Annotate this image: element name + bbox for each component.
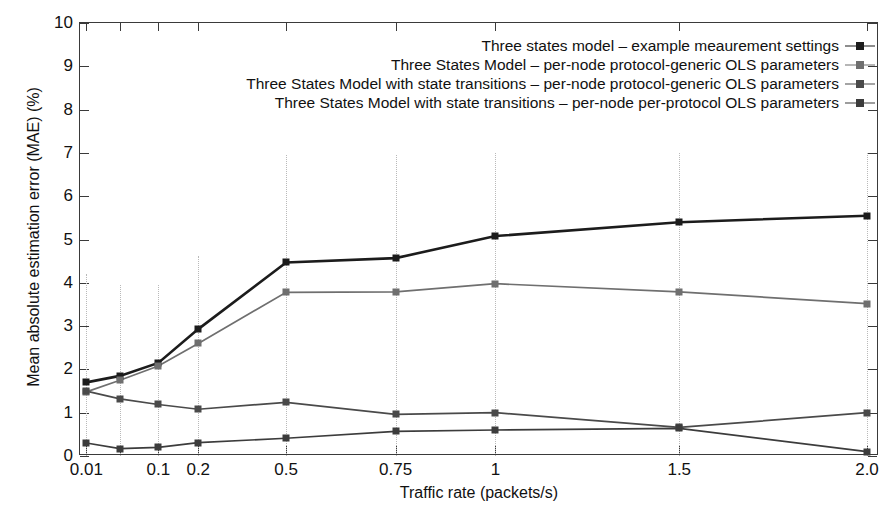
data-point-marker <box>283 399 290 406</box>
y-tick-mark <box>80 456 89 457</box>
data-point-marker <box>676 288 683 295</box>
data-point-marker <box>392 288 399 295</box>
data-point-marker <box>195 340 202 347</box>
plot-area: 012345678910 0.010.10.20.50.7511.52.0 Th… <box>79 22 878 455</box>
legend-square-icon <box>856 80 864 88</box>
y-tick-label: 6 <box>64 186 73 206</box>
legend-swatch <box>845 39 875 53</box>
legend-label: Three States Model – per-node protocol-g… <box>391 56 839 74</box>
legend-label: Three states model – example meaurement … <box>481 37 839 55</box>
data-point-marker <box>155 362 162 369</box>
series-line <box>86 284 867 392</box>
y-tick-label: 7 <box>64 143 73 163</box>
data-point-marker <box>83 388 90 395</box>
x-tick-label: 0.5 <box>274 460 298 480</box>
y-tick-label: 2 <box>64 359 73 379</box>
y-tick-label: 9 <box>64 56 73 76</box>
legend-swatch <box>845 77 875 91</box>
chart-legend: Three states model – example meaurement … <box>246 37 875 112</box>
y-axis-title: Mean absolute estimation error (MAE) (%) <box>25 17 43 457</box>
data-point-marker <box>283 289 290 296</box>
y-tick-label: 1 <box>64 403 73 423</box>
data-point-marker <box>116 395 123 402</box>
data-point-marker <box>492 427 499 434</box>
data-point-marker <box>864 448 871 455</box>
data-point-marker <box>864 409 871 416</box>
series-line <box>86 391 867 427</box>
data-point-marker <box>195 439 202 446</box>
x-tick-label: 0.01 <box>70 460 103 480</box>
data-point-marker <box>83 379 90 386</box>
data-point-marker <box>155 444 162 451</box>
y-tick-label: 5 <box>64 230 73 250</box>
data-point-marker <box>676 425 683 432</box>
legend-swatch <box>845 96 875 110</box>
data-point-marker <box>116 377 123 384</box>
x-tick-label: 1.5 <box>667 460 691 480</box>
data-point-marker <box>392 255 399 262</box>
legend-square-icon <box>856 61 864 69</box>
data-point-marker <box>195 326 202 333</box>
legend-item: Three States Model with state transition… <box>275 94 875 112</box>
y-tick-label: 3 <box>64 316 73 336</box>
data-point-marker <box>492 409 499 416</box>
data-point-marker <box>392 411 399 418</box>
data-point-marker <box>83 440 90 447</box>
data-point-marker <box>864 300 871 307</box>
x-tick-label: 0.1 <box>146 460 170 480</box>
data-point-marker <box>492 233 499 240</box>
legend-item: Three states model – example meaurement … <box>481 37 875 55</box>
legend-square-icon <box>856 99 864 107</box>
data-point-marker <box>283 435 290 442</box>
series-line <box>86 216 867 383</box>
legend-label: Three States Model with state transition… <box>246 75 839 93</box>
data-point-marker <box>283 259 290 266</box>
y-tick-label: 10 <box>54 13 73 33</box>
data-point-marker <box>492 280 499 287</box>
x-tick-label: 0.75 <box>379 460 412 480</box>
x-tick-label: 1 <box>491 460 500 480</box>
x-tick-label: 0.2 <box>186 460 210 480</box>
legend-square-icon <box>856 42 864 50</box>
legend-label: Three States Model with state transition… <box>275 94 839 112</box>
chart-figure: Mean absolute estimation error (MAE) (%)… <box>0 0 894 518</box>
data-point-marker <box>195 406 202 413</box>
series-line <box>86 428 867 451</box>
x-axis-title: Traffic rate (packets/s) <box>79 484 879 502</box>
legend-swatch <box>845 58 875 72</box>
legend-item: Three States Model with state transition… <box>246 75 875 93</box>
data-point-marker <box>155 401 162 408</box>
y-tick-label: 8 <box>64 100 73 120</box>
y-tick-mark-right <box>868 456 877 457</box>
data-point-marker <box>864 212 871 219</box>
data-point-marker <box>116 445 123 452</box>
data-point-marker <box>392 428 399 435</box>
legend-item: Three States Model – per-node protocol-g… <box>391 56 875 74</box>
x-tick-label: 2.0 <box>855 460 879 480</box>
data-point-marker <box>676 219 683 226</box>
y-tick-label: 4 <box>64 273 73 293</box>
